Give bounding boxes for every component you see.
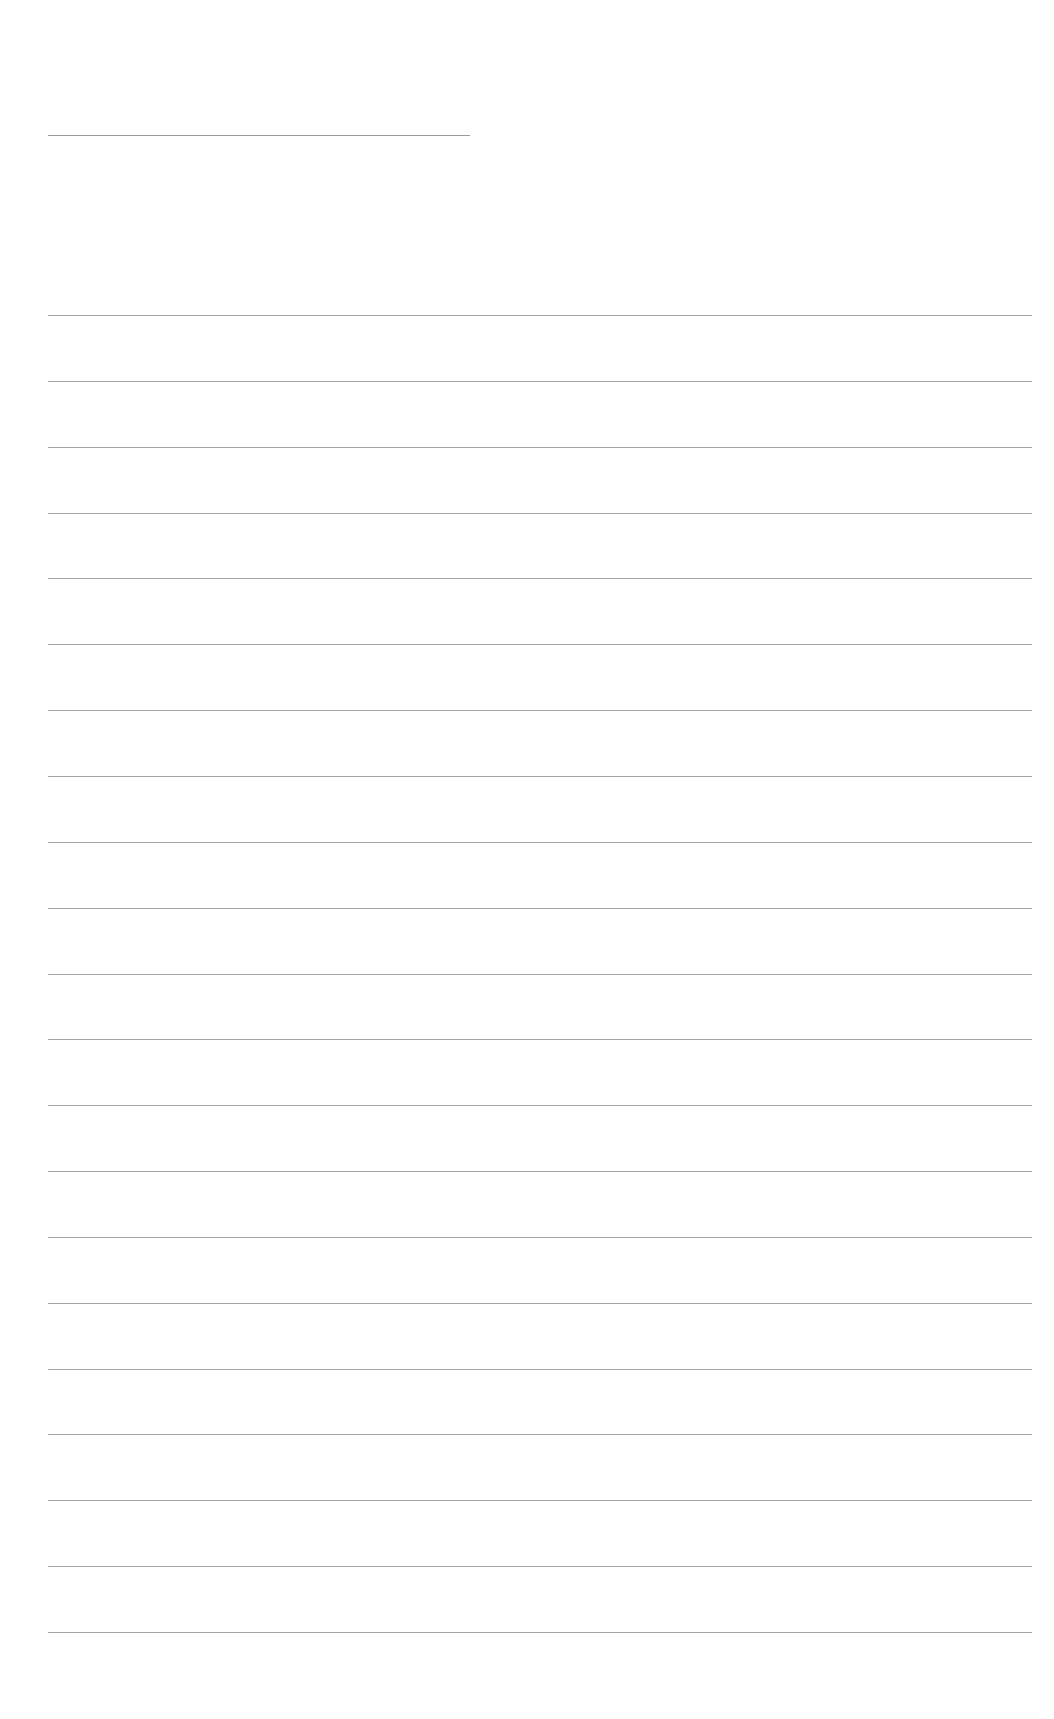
- ruled-line: [48, 578, 1032, 579]
- ruled-line: [48, 447, 1032, 448]
- ruled-line: [48, 1039, 1032, 1040]
- ruled-line: [48, 1105, 1032, 1106]
- ruled-line: [48, 908, 1032, 909]
- ruled-line: [48, 1632, 1032, 1633]
- title-line: [48, 135, 470, 136]
- ruled-line: [48, 1237, 1032, 1238]
- ruled-line: [48, 974, 1032, 975]
- ruled-line: [48, 776, 1032, 777]
- ruled-line: [48, 710, 1032, 711]
- ruled-line: [48, 1303, 1032, 1304]
- ruled-line: [48, 381, 1032, 382]
- ruled-line: [48, 315, 1032, 316]
- ruled-line: [48, 1500, 1032, 1501]
- ruled-line: [48, 1434, 1032, 1435]
- ruled-line: [48, 513, 1032, 514]
- ruled-line: [48, 1566, 1032, 1567]
- ruled-line: [48, 1369, 1032, 1370]
- ruled-line: [48, 842, 1032, 843]
- ruled-line: [48, 644, 1032, 645]
- ruled-line: [48, 1171, 1032, 1172]
